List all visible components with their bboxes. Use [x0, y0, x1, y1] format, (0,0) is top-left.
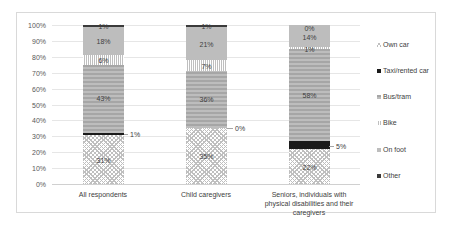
leader-line	[124, 134, 128, 135]
y-tick: 40%	[18, 117, 46, 124]
legend-swatch-icon	[377, 174, 381, 178]
x-category-label: Seniors, individuals with physical disab…	[254, 190, 364, 217]
legend-label: On foot	[383, 146, 406, 153]
legend-swatch-icon	[377, 121, 381, 125]
data-label: 36%	[186, 96, 227, 103]
data-label: 1%	[130, 131, 140, 138]
y-tick: 10%	[18, 165, 46, 172]
x-category-label: Child caregivers	[166, 190, 246, 199]
y-tick: 90%	[18, 38, 46, 45]
legend-label: Own car	[383, 41, 409, 48]
y-tick: 70%	[18, 70, 46, 77]
data-label: 14%	[289, 34, 330, 41]
leader-line	[227, 128, 233, 129]
bar-seniors: 22% 58% 1% 14% 0%	[289, 25, 330, 184]
data-label: 7%	[186, 63, 227, 70]
data-label: 1%	[83, 23, 124, 30]
data-label: 0%	[289, 25, 330, 32]
leader-line	[329, 146, 334, 147]
legend-swatch-icon	[377, 95, 381, 99]
legend-label: Other	[383, 172, 401, 179]
y-tick: 30%	[18, 133, 46, 140]
legend-item-own-car: Own car	[377, 41, 409, 48]
y-tick: 60%	[18, 86, 46, 93]
y-tick: 50%	[18, 102, 46, 109]
legend-swatch-icon	[377, 148, 381, 152]
x-category-label-line: physical disabilities and their	[254, 199, 364, 208]
y-tick: 80%	[18, 54, 46, 61]
legend-item-taxi: Taxi/rented car	[377, 67, 429, 74]
legend-label: Taxi/rented car	[383, 67, 429, 74]
y-tick: 20%	[18, 149, 46, 156]
legend-swatch-icon	[377, 69, 381, 73]
legend-item-other: Other	[377, 172, 401, 179]
legend-swatch-icon	[377, 43, 381, 47]
bar-child-caregivers: 35% 36% 7% 21% 1%	[186, 25, 227, 184]
segment-taxi	[289, 141, 330, 149]
x-category-label-line: Seniors, individuals with	[254, 190, 364, 199]
y-tick: 0%	[18, 181, 46, 188]
data-label: 5%	[336, 143, 346, 150]
data-label: 0%	[235, 125, 245, 132]
data-label: 1%	[289, 46, 330, 53]
segment-taxi	[83, 133, 124, 135]
data-label: 58%	[289, 92, 330, 99]
data-label: 31%	[83, 157, 124, 164]
legend-item-bus-tram: Bus/tram	[377, 93, 411, 100]
x-category-label: All respondents	[63, 190, 143, 199]
legend-label: Bike	[383, 119, 397, 126]
data-label: 22%	[289, 164, 330, 171]
legend-item-bike: Bike	[377, 119, 397, 126]
data-label: 18%	[83, 38, 124, 45]
y-tick: 100%	[18, 22, 46, 29]
data-label: 1%	[186, 23, 227, 30]
data-label: 43%	[83, 95, 124, 102]
bar-all-respondents: 31% 43% 6% 18% 1%	[83, 25, 124, 184]
data-label: 35%	[186, 153, 227, 160]
x-category-label-line: caregivers	[254, 208, 364, 217]
legend-label: Bus/tram	[383, 93, 411, 100]
data-label: 6%	[83, 57, 124, 64]
x-axis-line	[52, 184, 360, 185]
legend-item-on-foot: On foot	[377, 146, 406, 153]
data-label: 21%	[186, 41, 227, 48]
